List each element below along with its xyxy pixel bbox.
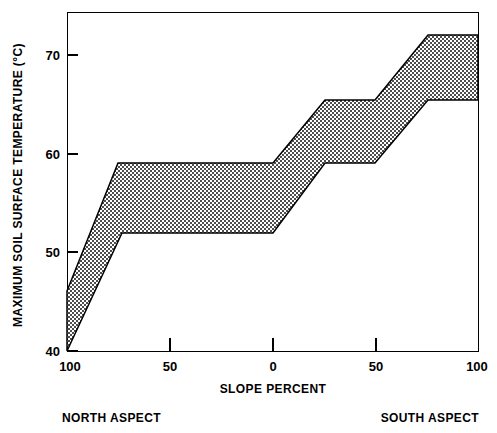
y-tick-label-60: 60 [46, 147, 60, 162]
y-axis-tick-labels: 70 60 50 40 [46, 48, 60, 359]
y-tick-label-70: 70 [46, 48, 60, 63]
y-axis-title: MAXIMUM SOIL SURFACE TEMPERATURE (°C) [11, 43, 25, 327]
north-aspect-label: NORTH ASPECT [62, 411, 161, 425]
temperature-range-band [67, 35, 478, 351]
soil-temperature-band-chart: 70 60 50 40 100 50 0 50 100 SLOPE PERCEN… [0, 0, 497, 433]
chart-figure: 70 60 50 40 100 50 0 50 100 SLOPE PERCEN… [0, 0, 497, 433]
x-axis-tick-labels: 100 50 0 50 100 [59, 359, 488, 374]
x-tick-label-north-50: 50 [163, 359, 177, 374]
x-tick-label-south-100: 100 [466, 359, 488, 374]
x-axis-title: SLOPE PERCENT [220, 382, 327, 396]
x-tick-label-north-100: 100 [59, 359, 81, 374]
y-tick-label-40: 40 [46, 344, 60, 359]
x-axis-ticks [170, 338, 376, 351]
y-tick-label-50: 50 [46, 245, 60, 260]
south-aspect-label: SOUTH ASPECT [381, 411, 480, 425]
x-tick-label-zero: 0 [269, 359, 276, 374]
x-tick-label-south-50: 50 [369, 359, 383, 374]
